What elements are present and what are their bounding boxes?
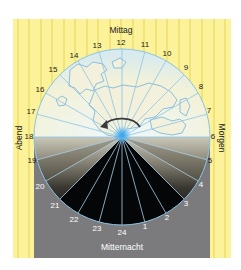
hour-label-24: 24: [118, 228, 127, 237]
hour-label-1: 1: [143, 222, 148, 231]
hour-label-16: 16: [36, 85, 45, 94]
label-morning: Morgen: [217, 124, 227, 153]
hour-label-22: 22: [70, 215, 79, 224]
hour-label-4: 4: [199, 180, 204, 189]
hour-label-14: 14: [70, 51, 79, 60]
hour-label-20: 20: [36, 182, 45, 191]
hour-label-12: 12: [117, 38, 126, 47]
label-midnight: Mitternacht: [101, 242, 144, 252]
hour-label-7: 7: [207, 106, 212, 115]
hour-label-23: 23: [93, 224, 102, 233]
center-glow: [113, 126, 131, 144]
hour-label-6: 6: [211, 132, 216, 141]
hour-label-21: 21: [51, 201, 60, 210]
hour-label-2: 2: [165, 213, 170, 222]
hour-label-19: 19: [28, 156, 37, 165]
label-evening: Abend: [14, 125, 24, 150]
hour-label-8: 8: [199, 82, 204, 91]
hour-label-5: 5: [208, 156, 213, 165]
hour-label-13: 13: [93, 41, 102, 50]
hour-label-17: 17: [27, 107, 36, 116]
hour-label-15: 15: [49, 65, 58, 74]
day-night-clock-diagram: Mittag Mitternacht Abend Morgen 12111098…: [0, 0, 241, 270]
hour-label-10: 10: [163, 49, 172, 58]
hour-label-18: 18: [25, 132, 34, 141]
hour-label-9: 9: [184, 63, 189, 72]
label-noon: Mittag: [109, 25, 132, 35]
hour-label-11: 11: [141, 40, 150, 49]
hour-label-3: 3: [184, 199, 189, 208]
